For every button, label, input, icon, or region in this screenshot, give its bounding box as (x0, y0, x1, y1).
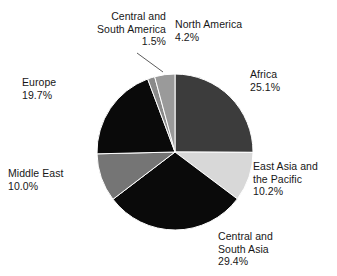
slice-label-east-asia-pacific: East Asia and the Pacific 10.2% (253, 160, 337, 198)
slice-label-central-south-america: Central and South America 1.5% (44, 10, 166, 48)
slice-label-middle-east: Middle East 10.0% (8, 167, 98, 192)
slice-label-africa: Africa 25.1% (250, 68, 336, 93)
leader-line-central-south-america (137, 53, 163, 72)
slice-label-central-south-asia: Central and South Asia 29.4% (218, 230, 328, 268)
slice-label-europe: Europe 19.7% (22, 76, 100, 101)
pie-slice (175, 74, 253, 152)
slice-label-north-america: North America 4.2% (175, 18, 285, 43)
pie-chart: Central and South America 1.5% North Ame… (0, 0, 337, 276)
pie-slice-group (97, 74, 253, 230)
